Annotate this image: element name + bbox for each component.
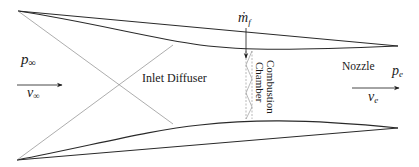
freestream-pressure-label: p∞ bbox=[20, 51, 36, 68]
exit-pressure-label: pe bbox=[391, 63, 403, 79]
fuel-flow-label: ṁf bbox=[238, 10, 252, 27]
bottom-cowl-inner bbox=[17, 121, 398, 160]
scramjet-diagram: p∞ v∞ ṁf Inlet Diffuser Combustion Chamb… bbox=[0, 0, 419, 167]
flame-holder-zigzag bbox=[246, 51, 252, 119]
top-cowl-outer bbox=[18, 11, 398, 46]
bottom-cowl-outer bbox=[17, 128, 398, 160]
nozzle-label: Nozzle bbox=[342, 60, 375, 72]
exit-velocity-label: ve bbox=[368, 89, 378, 105]
freestream-velocity-label: v∞ bbox=[27, 85, 40, 101]
inlet-diffuser-label: Inlet Diffuser bbox=[142, 71, 207, 85]
chamber-label: Chamber bbox=[254, 62, 266, 103]
shock-line-down bbox=[18, 11, 173, 124]
shock-line-up bbox=[17, 45, 173, 160]
